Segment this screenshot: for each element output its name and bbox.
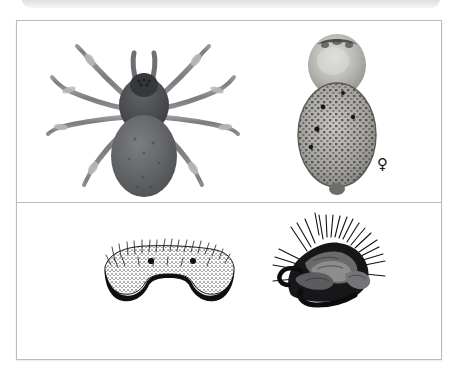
female-symbol-label: ♀ bbox=[377, 157, 388, 172]
male-palp-drawing bbox=[261, 211, 393, 317]
figure-panel-bottom: ♀ 외부 생식기 ♂ 교접기관 bbox=[17, 203, 441, 361]
epigynum-drawing bbox=[95, 233, 240, 311]
figure-panel-top: ♀ bbox=[17, 21, 441, 202]
figure-plate-frame: ♀ bbox=[16, 20, 442, 360]
spider-dorsal-photo bbox=[43, 27, 248, 199]
scroll-bar-fragment[interactable] bbox=[22, 0, 440, 8]
